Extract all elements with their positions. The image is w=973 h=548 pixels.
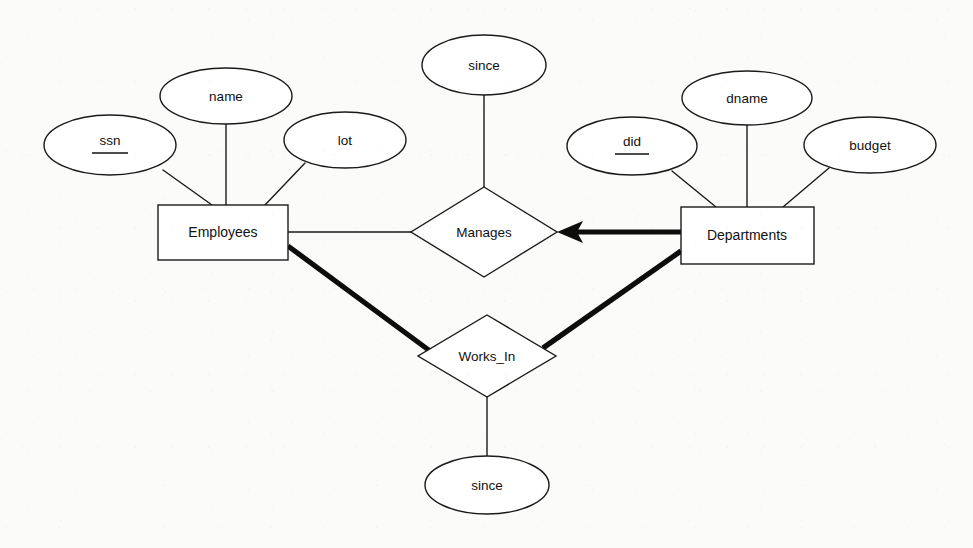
edge-ssn-to-employees [163,170,212,205]
edge-layer [163,95,829,456]
edge-departments-to-works-in [543,251,681,348]
entity-employees[interactable]: Employees [158,205,288,260]
attribute-since-works-in[interactable]: since [425,456,549,514]
entity-departments[interactable]: Departments [681,207,814,264]
attribute-ssn-label: ssn [99,133,120,148]
attribute-since-works-in-label: since [471,478,503,493]
attribute-dname-label: dname [726,91,767,106]
attribute-did[interactable]: did [567,117,697,175]
attribute-layer: ssn name lot since did [44,35,936,514]
edge-lot-to-employees [265,163,305,205]
edge-employees-to-works-in [288,246,430,351]
relationship-manages-label: Manages [456,225,512,240]
er-diagram-svg: ssn name lot since did [0,0,973,548]
attribute-since-manages[interactable]: since [422,35,546,95]
attribute-lot[interactable]: lot [284,112,406,168]
edge-budget-to-departments [783,168,829,207]
attribute-ssn[interactable]: ssn [44,115,176,175]
attribute-dname[interactable]: dname [682,71,812,125]
attribute-did-label: did [623,134,641,149]
entity-departments-label: Departments [707,227,787,243]
attribute-budget-label: budget [849,138,891,153]
relationship-layer: Manages Works_In [411,187,557,397]
attribute-name-label: name [209,89,243,104]
entity-employees-label: Employees [188,224,257,240]
attribute-since-manages-label: since [468,58,500,73]
relationship-works-in-label: Works_In [459,349,516,364]
relationship-manages[interactable]: Manages [411,187,557,277]
er-diagram-canvas: ssn name lot since did [0,0,973,548]
attribute-budget[interactable]: budget [804,117,936,173]
relationship-works-in[interactable]: Works_In [418,315,556,397]
edge-did-to-departments [672,171,716,207]
attribute-name[interactable]: name [160,68,292,124]
attribute-lot-label: lot [338,133,353,148]
